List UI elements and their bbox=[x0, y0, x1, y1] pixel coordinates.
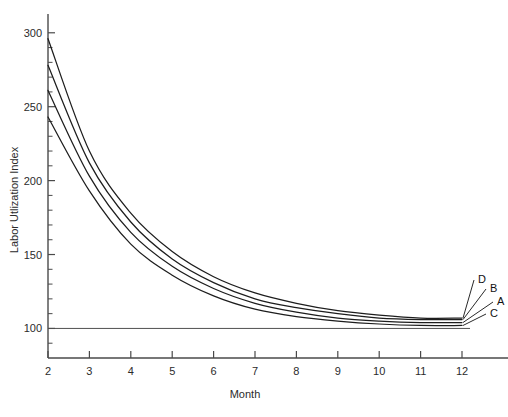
x-tick-label: 10 bbox=[373, 365, 385, 377]
series-endpoint-labels: DBAC bbox=[463, 273, 505, 325]
leader-line-a bbox=[463, 302, 493, 323]
y-tick-label: 100 bbox=[24, 322, 42, 334]
x-tick-label: 5 bbox=[169, 365, 175, 377]
y-axis-title: Labor Utlization Index bbox=[8, 146, 20, 253]
x-tick-label: 11 bbox=[415, 365, 426, 377]
y-tick-label: 200 bbox=[24, 175, 42, 187]
y-tick-label: 250 bbox=[24, 101, 42, 113]
series-line-d bbox=[48, 39, 462, 319]
series-line-b bbox=[48, 65, 462, 319]
x-tick-label: 3 bbox=[86, 365, 92, 377]
x-tick-label: 9 bbox=[335, 365, 341, 377]
y-tick-label: 300 bbox=[24, 27, 42, 39]
series-label-a: A bbox=[497, 295, 505, 307]
x-axis: 23456789101112 bbox=[45, 351, 508, 377]
series-curves bbox=[48, 39, 462, 326]
y-axis: 100150200250300 bbox=[24, 14, 55, 358]
series-label-b: B bbox=[490, 282, 497, 294]
x-tick-label: 7 bbox=[252, 365, 258, 377]
x-tick-label: 8 bbox=[293, 365, 299, 377]
x-tick-label: 12 bbox=[456, 365, 468, 377]
series-line-a bbox=[48, 90, 462, 322]
y-tick-label: 150 bbox=[24, 249, 42, 261]
x-tick-label: 4 bbox=[128, 365, 134, 377]
x-tick-label: 2 bbox=[45, 365, 51, 377]
series-label-d: D bbox=[478, 273, 486, 285]
x-axis-title: Month bbox=[230, 388, 261, 400]
series-line-c bbox=[48, 117, 462, 326]
x-tick-label: 6 bbox=[211, 365, 217, 377]
line-chart: 100150200250300 23456789101112 DBAC Mont… bbox=[0, 0, 508, 417]
chart-container: 100150200250300 23456789101112 DBAC Mont… bbox=[0, 0, 508, 417]
series-label-c: C bbox=[490, 307, 498, 319]
